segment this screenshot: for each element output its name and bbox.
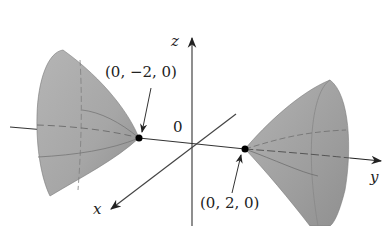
vertex-point-left — [136, 135, 143, 142]
y-axis-label: y — [370, 170, 378, 185]
pointer-left — [142, 88, 151, 132]
right-sheet — [245, 80, 350, 226]
point-label-pos: (0, 2, 0) — [200, 196, 259, 211]
figure-canvas — [0, 0, 391, 226]
vertex-point-right — [242, 146, 249, 153]
z-axis-label: z — [171, 34, 179, 49]
pointer-right — [232, 155, 241, 193]
point-label-neg: (0, −2, 0) — [105, 65, 177, 80]
x-axis-label: x — [93, 202, 101, 217]
origin-label: 0 — [173, 120, 183, 135]
y-axis-positive — [350, 158, 381, 161]
